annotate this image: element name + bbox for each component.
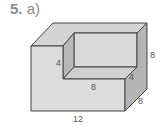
notch-back-wall [74,33,137,67]
dim-height: 8 [150,50,155,60]
dim-notch-length: 8 [91,82,96,92]
dim-notch-height: 4 [56,58,61,68]
dim-length: 12 [73,114,83,124]
prism-diagram: 4 8 4 8 8 12 [0,0,162,129]
dim-depth: 8 [138,96,143,106]
dim-notch-depth: 4 [129,72,134,82]
notch-floor [63,67,137,79]
